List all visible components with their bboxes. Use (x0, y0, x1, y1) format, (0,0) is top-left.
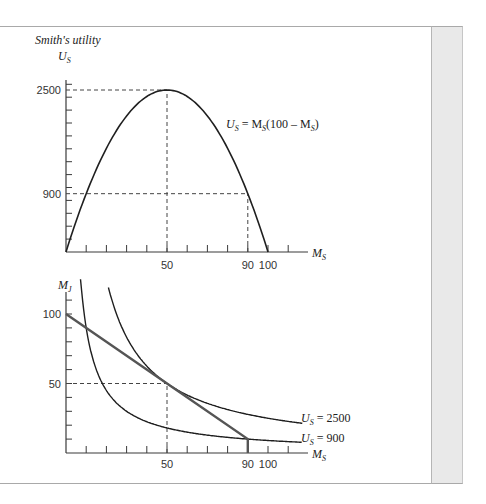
curve-label-900: US = 900 (301, 431, 344, 447)
top-y-axis-label: US (58, 49, 71, 65)
curve-label-2500: US = 2500 (301, 411, 350, 427)
svg-text:90: 90 (242, 259, 254, 271)
svg-text:100: 100 (259, 259, 277, 271)
top-reference-lines (66, 90, 248, 252)
bottom-reference-lines (66, 384, 167, 454)
svg-text:100: 100 (43, 308, 61, 320)
top-x-axis-label: MS (311, 246, 326, 262)
bottom-tick-labels: 100505090100 (43, 308, 278, 470)
bottom-x-axis-label: MS (311, 447, 326, 463)
svg-text:2500: 2500 (37, 84, 61, 96)
budget-line (66, 314, 248, 453)
chart-canvas: Smith's utility US 25009005090100 US = M… (0, 0, 486, 504)
indifference-curve-2500 (108, 288, 302, 424)
svg-text:90: 90 (242, 458, 254, 470)
bottom-y-axis-label: MJ (57, 278, 72, 294)
svg-text:50: 50 (49, 378, 61, 390)
svg-text:900: 900 (43, 188, 61, 200)
top-chart: Smith's utility US 25009005090100 US = M… (35, 33, 326, 271)
top-chart-title: Smith's utility (35, 33, 101, 47)
top-axes (66, 80, 308, 252)
svg-text:50: 50 (161, 458, 173, 470)
utility-curve-label: US = MS(100 – MS) (226, 117, 319, 133)
bottom-axes (66, 292, 308, 453)
bottom-chart: MJ 100505090100 US = 2500 US = 900 MS (43, 278, 351, 470)
svg-text:50: 50 (161, 259, 173, 271)
svg-text:100: 100 (259, 458, 277, 470)
